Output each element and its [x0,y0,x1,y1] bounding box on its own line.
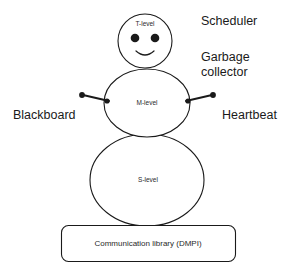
heartbeat-label: Heartbeat [222,108,277,123]
diagram-canvas: T-level M-level S-level Communication li… [0,0,296,273]
left-arm-joint-dot [104,98,109,103]
scheduler-label: Scheduler [201,14,257,29]
left-eye-icon [131,34,140,43]
s-level-label: S-level [138,176,158,183]
blackboard-label: Blackboard [13,108,76,123]
communication-library-label: Communication library (DMPI) [94,239,201,248]
right-eye-icon [151,34,160,43]
heartbeat-endpoint-dot [210,92,216,98]
garbage-collector-line2: collector [201,65,250,80]
blackboard-endpoint-dot [79,92,85,98]
snowman-architecture-svg: T-level M-level S-level Communication li… [0,0,296,273]
t-level-label: T-level [135,20,155,27]
m-level-label: M-level [137,99,159,106]
garbage-collector-line1: Garbage [201,50,250,65]
right-arm-joint-dot [185,98,190,103]
garbage-collector-label: Garbage collector [201,50,250,80]
